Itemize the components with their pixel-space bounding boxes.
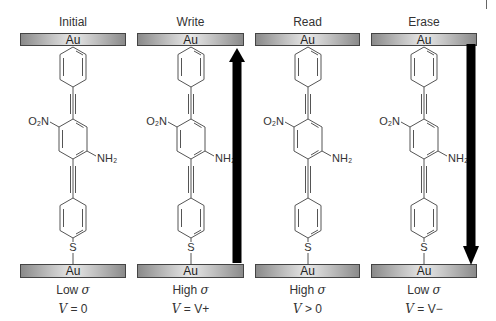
conductance-label: High σ (137, 283, 244, 297)
amino-group-label: NH₂ (332, 152, 352, 164)
conductance-label: High σ (255, 283, 360, 297)
bottom-gold-electrode: Au (255, 264, 360, 278)
sulfur-atom-label: S (420, 241, 427, 253)
conductance-label: Low σ (20, 283, 126, 297)
nitro-group-label: O₂N (263, 115, 284, 127)
bottom-gold-electrode: Au (20, 264, 126, 278)
voltage-label: V = V+ (137, 302, 244, 316)
erase-arrow-down-icon (461, 40, 481, 280)
state-panel-initial: Initial Au (20, 0, 126, 321)
nitro-group-label: O₂N (379, 115, 400, 127)
sulfur-atom-label: S (304, 241, 311, 253)
nitro-group-label: O₂N (28, 115, 49, 127)
state-panel-read: Read Au (255, 0, 360, 321)
nitro-group-label: O₂N (146, 115, 167, 127)
amino-group-label: NH₂ (97, 152, 117, 164)
voltage-label: V = V− (371, 302, 477, 316)
sulfur-atom-label: S (187, 241, 194, 253)
voltage-label: V = 0 (20, 302, 126, 316)
sulfur-atom-label: S (69, 241, 76, 253)
write-arrow-up-icon (227, 40, 247, 280)
conductance-label: Low σ (371, 283, 477, 297)
voltage-label: V > 0 (255, 302, 360, 316)
